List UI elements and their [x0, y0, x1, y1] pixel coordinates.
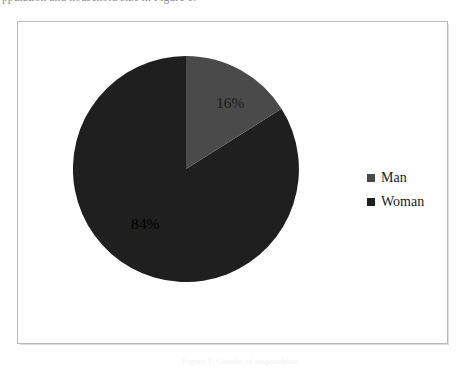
figure-caption-text: Figure 1. Gender of respondents: [150, 356, 330, 366]
pie-chart-svg: 16% 84%: [73, 56, 299, 282]
page-top-running-text: ppulation and household size in Figure 1…: [0, 0, 469, 5]
top-running-text-line: ppulation and household size in Figure 1…: [0, 0, 469, 3]
legend-label-woman: Woman: [381, 195, 424, 209]
figure-page: ppulation and household size in Figure 1…: [0, 0, 469, 369]
pie-chart: 16% 84%: [73, 56, 299, 282]
legend-item-man[interactable]: Man: [367, 166, 449, 190]
legend-item-woman[interactable]: Woman: [367, 190, 449, 214]
legend-label-man: Man: [381, 171, 407, 185]
chart-frame: 16% 84% Man Woman: [17, 21, 448, 344]
square-marker-icon-woman: [367, 198, 375, 206]
chart-legend: Man Woman: [367, 166, 449, 214]
figure-caption: Figure 1. Gender of respondents: [150, 356, 330, 367]
pie-slice-label-woman: 84%: [131, 215, 160, 232]
pie-slice-label-man: 16%: [216, 94, 245, 111]
square-marker-icon-man: [367, 174, 375, 182]
